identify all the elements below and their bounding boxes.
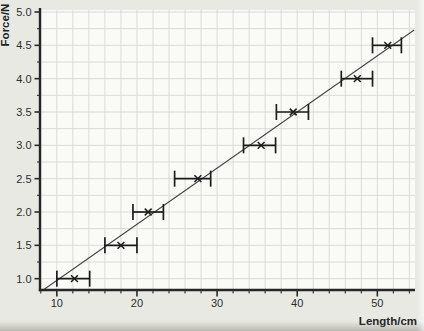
x-tick-label: 10 <box>51 297 63 309</box>
y-tick-label: 1.0 <box>16 273 31 285</box>
y-tick-label: 4.0 <box>16 73 31 85</box>
chart-svg: 1020304050 1.01.52.02.53.03.54.04.55.0 F… <box>0 0 424 331</box>
x-tick-label: 50 <box>371 297 383 309</box>
x-tick-label: 30 <box>211 297 223 309</box>
plot-area <box>40 10 415 290</box>
force-vs-length-graph: 1020304050 1.01.52.02.53.03.54.04.55.0 F… <box>0 0 424 331</box>
y-tick-label: 2.0 <box>16 206 31 218</box>
y-axis-label: Force/N <box>0 4 11 47</box>
x-tick-label: 20 <box>131 297 143 309</box>
y-tick-label: 4.5 <box>16 39 31 51</box>
y-tick-label: 1.5 <box>16 239 31 251</box>
y-tick-label: 5.0 <box>16 6 31 18</box>
y-tick-label: 3.0 <box>16 139 31 151</box>
x-tick-label: 40 <box>291 297 303 309</box>
x-axis-label: Length/cm <box>359 315 417 327</box>
y-tick-label: 2.5 <box>16 173 31 185</box>
y-tick-label: 3.5 <box>16 106 31 118</box>
y-tick-labels: 1.01.52.02.53.03.54.04.55.0 <box>16 6 31 285</box>
